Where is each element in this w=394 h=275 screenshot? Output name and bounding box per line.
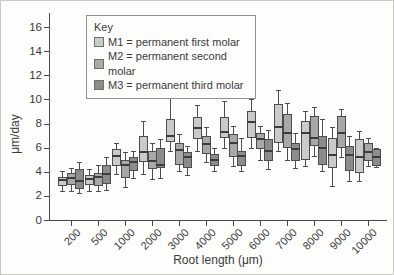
whisker-cap-bottom [60,191,65,192]
box-M3-9000 [345,146,354,170]
whisker-cap-top [96,165,101,166]
legend-title: Key [94,20,247,35]
whisker-cap-top [330,127,335,128]
y-axis [49,13,50,221]
y-tick [44,196,49,197]
whisker-cap-bottom [204,162,209,163]
whisker-cap-bottom [258,160,263,161]
whisker-cap-top [185,146,190,147]
legend-label-m1: M1 = permanent first molar [108,35,240,50]
x-tick-label: 10000 [349,226,379,256]
whisker-cap-top [357,131,362,132]
legend-label-m3: M3 = permanent third molar [108,78,243,93]
whisker-cap-bottom [347,181,352,182]
whisker-cap-bottom [195,151,200,152]
x-tick-label: 4000 [192,226,218,252]
whisker-cap-bottom [104,190,109,191]
whisker-cap-top [303,111,308,112]
median-line-M2-4000 [202,143,211,145]
whisker-cap-top [366,138,371,139]
whisker-cap-bottom [285,160,290,161]
y-tick-label: 14 [22,45,42,58]
x-tick-label: 1000 [111,226,137,252]
x-tick [233,221,234,226]
box-M3-7000 [291,143,300,161]
whisker-cap-top [239,138,244,139]
whisker-cap-top [77,162,82,163]
median-line-M1-4000 [193,127,202,129]
whisker-cap-top [320,119,325,120]
whisker-cap-top [123,152,128,153]
whisker-cap-top [258,126,263,127]
whisker-cap-top [150,143,155,144]
whisker-cap-bottom [77,193,82,194]
median-line-M3-5000 [237,155,246,157]
median-line-M1-1000 [112,155,121,157]
whisker-cap-bottom [141,174,146,175]
y-tick-label: 16 [22,21,42,34]
whisker-cap-bottom [339,157,344,158]
whisker-cap-bottom [303,166,308,167]
legend-swatch-m1-icon [94,37,104,47]
whisker-cap-top [158,139,163,140]
x-tick-label: 7000 [273,226,299,252]
x-tick [287,221,288,226]
whisker-cap-bottom [276,151,281,152]
median-line-M1-3000 [166,135,175,137]
whisker-cap-bottom [212,171,217,172]
whisker-cap-bottom [222,148,227,149]
boxplot-figure: 0246810121416200500100020003000400050006… [0,0,394,275]
x-tick [206,221,207,226]
whisker-cap-top [204,127,209,128]
box-M3-1000 [129,157,138,170]
whisker-cap-bottom [320,171,325,172]
median-line-M3-10000 [372,156,381,158]
y-tick [44,124,49,125]
x-tick-label: 6000 [246,226,272,252]
whisker-cap-bottom [330,186,335,187]
whisker-cap-bottom [168,151,173,152]
whisker-cap-top [285,103,290,104]
whisker-cap-bottom [69,191,74,192]
x-tick [98,221,99,226]
y-tick-label: 0 [22,214,42,227]
median-line-M3-3000 [183,156,192,158]
x-tick [341,221,342,226]
median-line-M3-4000 [210,159,219,161]
x-tick-label: 3000 [165,226,191,252]
whisker-cap-top [141,121,146,122]
whisker-cap-top [266,130,271,131]
x-axis-label: Root length (μm) [49,253,387,267]
median-line-M2-9000 [337,132,346,134]
whisker-cap-bottom [239,171,244,172]
whisker-cap-top [312,107,317,108]
x-axis [49,220,387,221]
y-tick [44,27,49,28]
x-tick-label: 200 [61,226,82,247]
legend-entry-m2: M2 = permanent second molar [94,49,247,78]
median-line-M1-5000 [220,131,229,133]
x-tick [152,221,153,226]
legend-label-m2: M2 = permanent second molar [108,49,247,78]
median-line-M3-8000 [318,147,327,149]
whisker-cap-top [114,143,119,144]
whisker-cap-top [212,148,217,149]
y-tick [44,172,49,173]
legend-swatch-m2-icon [94,59,104,69]
whisker-cap-top [195,105,200,106]
whisker-cap-bottom [158,178,163,179]
median-line-M3-500 [102,173,111,175]
whisker-cap-bottom [312,156,317,157]
x-tick-label: 8000 [300,226,326,252]
box-M3-200 [75,169,84,188]
whisker-cap-top [60,171,65,172]
x-tick [71,221,72,226]
median-line-M1-9000 [328,154,337,156]
whisker-cap-bottom [374,167,379,168]
box-M3-3000 [183,152,192,168]
y-tick-label: 2 [22,189,42,202]
y-tick-label: 10 [22,93,42,106]
y-tick [44,99,49,100]
whisker-cap-top [222,101,227,102]
whisker-cap-top [347,136,352,137]
